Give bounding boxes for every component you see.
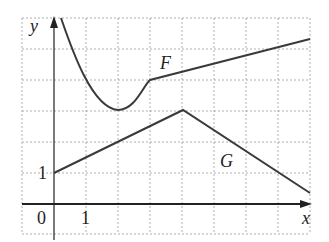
y-axis-label: y	[28, 16, 38, 36]
origin-label: 0	[37, 208, 46, 228]
y-axis	[50, 16, 58, 240]
x-tick-label: 1	[81, 208, 90, 228]
curve-f-label: F	[159, 53, 172, 73]
graph-figure: y x 0 1 1 F G	[0, 0, 329, 242]
curve-f	[61, 18, 310, 110]
y-tick-label: 1	[38, 163, 47, 183]
x-axis-label: x	[301, 208, 310, 228]
x-axis	[22, 200, 312, 208]
curve-g-label: G	[220, 151, 233, 171]
